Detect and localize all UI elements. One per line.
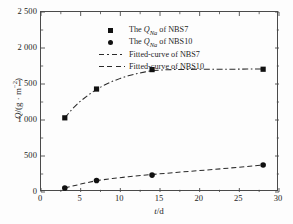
x-axis-title-rest: /d — [157, 206, 164, 216]
circle-marker-icon — [99, 37, 125, 48]
chart-legend: The QNa of NBS7 The QNa of NBS10 Fitted-… — [99, 25, 224, 73]
x-tick-label: 30 — [274, 194, 283, 203]
legend-label-nbs10-points: The QNa of NBS10 — [125, 37, 192, 49]
dashed-line-icon — [99, 61, 125, 72]
square-marker-icon — [99, 25, 125, 36]
chart-figure: 05001 0001 5002 0002 500 Q/(g · m−2) The… — [0, 0, 293, 224]
x-tick-label: 5 — [78, 194, 82, 203]
y-axis-title-open: /(g · m — [13, 88, 23, 113]
y-axis-title-symbol: Q — [13, 112, 23, 119]
legend-label-nbs10-curve: Fitted-curve of NBS10 — [125, 62, 204, 71]
dash-dot-line-icon — [99, 49, 125, 60]
y-axis-title-close: ) — [13, 78, 23, 81]
legend-entry-nbs10-curve: Fitted-curve of NBS10 — [99, 61, 224, 72]
legend-entry-nbs10-points: The QNa of NBS10 — [99, 37, 224, 48]
y-tick-label: 500 — [24, 151, 37, 160]
plot-area: The QNa of NBS7 The QNa of NBS10 Fitted-… — [40, 11, 278, 191]
data-markers — [62, 67, 266, 191]
x-tick-label: 0 — [38, 194, 42, 203]
x-tick-label: 25 — [234, 194, 243, 203]
y-tick-label: 2 500 — [17, 7, 37, 16]
legend-entry-nbs7-points: The QNa of NBS7 — [99, 25, 224, 36]
legend-label-nbs7-points: The QNa of NBS7 — [125, 25, 188, 37]
legend-entry-nbs7-curve: Fitted-curve of NBS7 — [99, 49, 224, 60]
x-tick-label: 15 — [155, 194, 164, 203]
x-axis-tick-labels: 051015202530 — [40, 194, 278, 206]
y-axis-title: Q/(g · m−2) — [10, 49, 23, 149]
x-tick-label: 10 — [115, 194, 124, 203]
x-tick-label: 20 — [194, 194, 203, 203]
x-axis-title: t/d — [40, 206, 278, 216]
legend-label-nbs7-curve: Fitted-curve of NBS7 — [125, 50, 200, 59]
y-tick-label: 0 — [33, 187, 37, 196]
y-axis-title-exponent: −2 — [11, 81, 18, 88]
